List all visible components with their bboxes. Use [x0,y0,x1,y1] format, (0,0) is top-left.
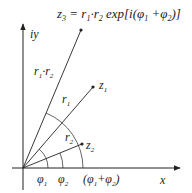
arc-phi2 [60,153,63,168]
point-z1 [91,85,94,88]
y-axis-label: iy [30,27,39,41]
label-r2: r2 [65,130,74,146]
label-z1: z1 [98,78,107,94]
label-phi2: φ2 [58,172,69,188]
label-r1: r1 [62,92,70,108]
formula: z3 = r1·r2 exp[i(φ1 +φ2)] [56,6,181,23]
point-z2 [80,142,83,145]
label-phi-sum: (φ1+φ2) [83,172,119,188]
vector-z1 [23,87,93,168]
complex-multiplication-diagram: z3 = r1·r2 exp[i(φ1 +φ2)] iy x z1 z2 r1·… [0,0,192,193]
diagram-canvas: z3 = r1·r2 exp[i(φ1 +φ2)] iy x z1 z2 r1·… [0,0,192,193]
point-z3 [79,28,82,31]
x-axis-label: x [159,173,166,187]
label-phi1: φ1 [37,172,47,188]
vector-z3 [23,30,81,168]
label-z2: z2 [85,138,95,154]
label-r1r2: r1·r2 [34,64,54,80]
